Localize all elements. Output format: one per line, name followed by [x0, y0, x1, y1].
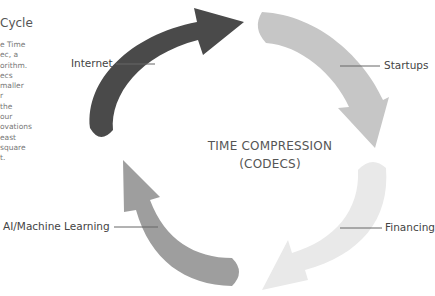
label-financing: Financing: [385, 221, 435, 233]
center-title-line2: (CODECS): [190, 155, 350, 173]
startups-arrow-icon: [258, 12, 389, 148]
center-title-line1: TIME COMPRESSION: [190, 137, 350, 155]
financing-arrow-icon: [262, 162, 386, 290]
label-internet: Internet: [71, 57, 113, 69]
label-startups: Startups: [384, 59, 428, 71]
internet-arrow-icon: [90, 8, 244, 137]
label-ai-machine-learning: AI/Machine Learning: [3, 220, 110, 232]
ai-arrow-icon: [123, 160, 239, 286]
center-title: TIME COMPRESSION (CODECS): [190, 137, 350, 173]
